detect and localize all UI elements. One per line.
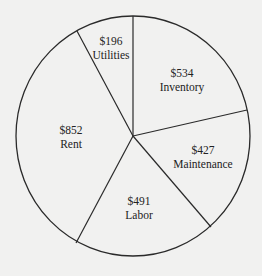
slice-value: $196: [92, 34, 129, 48]
slice-value: $491: [125, 194, 152, 208]
slice-label-maintenance: $427 Maintenance: [173, 143, 232, 171]
slice-label-utilities: $196 Utilities: [92, 34, 129, 62]
slice-value: $534: [160, 66, 205, 80]
pie-graphic: [0, 0, 262, 276]
slice-value: $427: [173, 143, 232, 157]
slice-label-inventory: $534 Inventory: [160, 66, 205, 94]
slice-name: Inventory: [160, 80, 205, 94]
slice-label-rent: $852 Rent: [60, 123, 83, 151]
slice-name: Utilities: [92, 48, 129, 62]
slice-name: Labor: [125, 208, 152, 222]
slice-name: Maintenance: [173, 157, 232, 171]
slice-label-labor: $491 Labor: [125, 194, 152, 222]
slice-name: Rent: [60, 137, 83, 151]
slice-value: $852: [60, 123, 83, 137]
pie-chart: $196 Utilities $534 Inventory $427 Maint…: [0, 0, 262, 276]
